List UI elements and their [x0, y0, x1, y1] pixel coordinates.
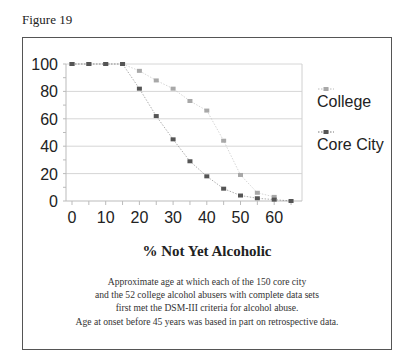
y-tick-label: 60 — [40, 111, 58, 128]
data-point-marker — [255, 196, 260, 200]
x-tick-label: 50 — [232, 209, 250, 226]
data-point-marker — [221, 187, 226, 191]
data-point-marker — [171, 87, 176, 91]
legend-marker-icon — [324, 130, 329, 134]
x-tick-label: 10 — [97, 209, 115, 226]
y-tick-label: 0 — [49, 193, 58, 210]
data-point-marker — [255, 191, 260, 195]
y-tick-label: 20 — [40, 166, 58, 183]
axes — [63, 64, 302, 205]
x-tick-label: 60 — [265, 209, 283, 226]
y-tick-label: 40 — [40, 138, 58, 155]
data-point-marker — [171, 137, 176, 141]
series-group — [70, 62, 294, 203]
data-point-marker — [204, 174, 209, 178]
data-point-marker — [187, 99, 192, 103]
chart-title: % Not Yet Alcoholic — [22, 243, 392, 260]
data-point-marker — [137, 87, 142, 91]
data-point-marker — [272, 198, 277, 202]
x-tick-label: 0 — [68, 209, 77, 226]
x-tick-label: 30 — [164, 209, 182, 226]
data-point-marker — [289, 199, 294, 203]
legend-marker-icon — [324, 87, 329, 91]
gridlines — [66, 64, 302, 201]
data-point-marker — [238, 173, 243, 177]
caption-line: first met the DSM-III criteria for alcoh… — [22, 301, 392, 314]
data-point-marker — [204, 109, 209, 113]
data-point-marker — [238, 194, 243, 198]
data-point-marker — [86, 62, 91, 66]
y-tick-label: 100 — [31, 56, 58, 73]
data-point-marker — [120, 62, 125, 66]
caption-line: and the 52 college alcohol abusers with … — [22, 288, 392, 301]
data-point-marker — [154, 78, 159, 82]
x-tick-label: 40 — [198, 209, 216, 226]
data-point-marker — [137, 69, 142, 73]
legend-label: Core City — [317, 136, 384, 153]
data-point-marker — [187, 159, 192, 163]
y-tick-label: 80 — [40, 83, 58, 100]
caption-line: Age at onset before 45 years was based i… — [22, 315, 392, 328]
series-line — [72, 64, 291, 201]
data-point-marker — [70, 62, 75, 66]
caption-text: Approximate age at which each of the 150… — [22, 275, 392, 328]
series-line — [72, 64, 274, 197]
caption-line: Approximate age at which each of the 150… — [22, 275, 392, 288]
legend-label: College — [317, 93, 371, 110]
x-tick-label: 20 — [131, 209, 149, 226]
data-point-marker — [221, 139, 226, 143]
data-point-marker — [154, 114, 159, 118]
legend: CollegeCore City — [317, 87, 384, 153]
data-point-marker — [103, 62, 108, 66]
